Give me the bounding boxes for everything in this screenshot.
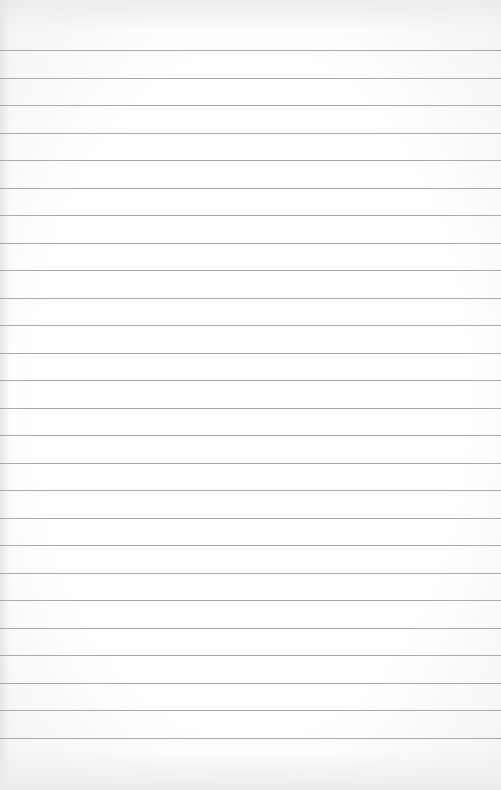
ruled-line <box>0 573 501 574</box>
ruled-line <box>0 243 501 244</box>
ruled-line <box>0 463 501 464</box>
ruled-line <box>0 298 501 299</box>
ruled-line <box>0 518 501 519</box>
ruled-line <box>0 270 501 271</box>
ruled-line <box>0 50 501 51</box>
ruled-line <box>0 600 501 601</box>
ruled-line <box>0 738 501 739</box>
ruled-line <box>0 353 501 354</box>
ruled-line <box>0 380 501 381</box>
ruled-line <box>0 628 501 629</box>
ruled-line <box>0 435 501 436</box>
ruled-line <box>0 78 501 79</box>
ruled-line <box>0 188 501 189</box>
paper-bottom-edge-shading <box>0 750 501 790</box>
ruled-line <box>0 215 501 216</box>
ruled-line <box>0 545 501 546</box>
ruled-line <box>0 160 501 161</box>
ruled-line <box>0 133 501 134</box>
ruled-line <box>0 408 501 409</box>
ruled-line <box>0 325 501 326</box>
paper-top-edge-shading <box>0 0 501 30</box>
ruled-line <box>0 655 501 656</box>
ruled-line <box>0 710 501 711</box>
paper-left-edge-shading <box>0 0 10 790</box>
ruled-line <box>0 105 501 106</box>
ruled-line <box>0 683 501 684</box>
ruled-line <box>0 490 501 491</box>
lined-paper-sheet <box>0 0 501 790</box>
